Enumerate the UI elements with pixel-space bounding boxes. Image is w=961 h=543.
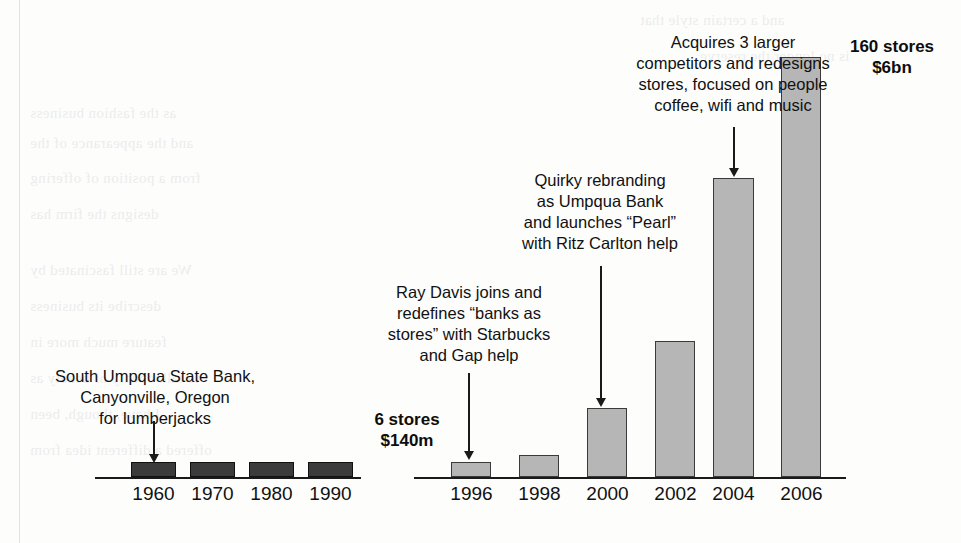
annotation-founding: South Umpqua State Bank, Canyonville, Or… [22,366,288,429]
bar-1990 [308,462,353,477]
bar-2000 [587,408,627,477]
callout-end-scale: 160 stores $6bn [827,36,957,78]
arrow-rebranding-to-2000 [600,266,602,399]
annotation-rebranding: Quirky rebranding as Umpqua Bank and lau… [484,170,716,254]
tick-label-2002: 2002 [643,483,708,505]
umpqua-growth-bar-chart: 1960 1970 1980 1990 1996 1998 2000 2002 … [0,0,961,543]
bar-1970 [190,462,235,477]
arrow-acquisitions-to-2004 [733,127,735,169]
annotation-ray-davis: Ray Davis joins and redefines “banks as … [353,282,585,366]
tick-label-2006: 2006 [769,483,834,505]
axis-line-early-era [95,477,361,479]
axis-line-growth-era [414,477,846,479]
tick-label-1970: 1970 [180,483,245,505]
bar-2006 [781,57,821,477]
arrow-ray-davis-to-1996 [468,373,470,452]
bar-1996 [451,462,491,477]
tick-label-2000: 2000 [575,483,640,505]
bar-1998 [519,455,559,477]
scanned-page: and a certain style that is no longer th… [0,0,961,543]
arrow-founding-to-1960 [153,421,155,455]
bar-1980 [249,462,294,477]
bar-1960 [131,462,176,477]
callout-start-scale: 6 stores $140m [349,409,465,451]
bar-2004 [713,178,754,477]
tick-label-1980: 1980 [239,483,304,505]
tick-label-1996: 1996 [439,483,504,505]
tick-label-2004: 2004 [701,483,766,505]
bar-2002 [655,341,695,477]
tick-label-1990: 1990 [298,483,363,505]
tick-label-1960: 1960 [121,483,186,505]
tick-label-1998: 1998 [507,483,572,505]
